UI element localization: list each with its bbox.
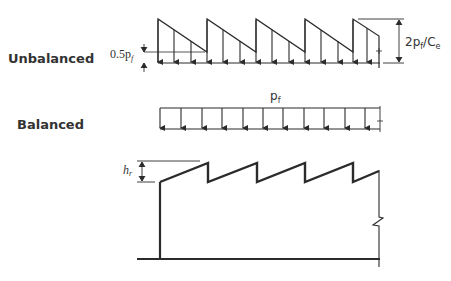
balanced-load-label: pf [270,89,281,105]
balanced-arrows [160,108,365,128]
roof-height-label: hr [123,163,133,178]
sawtooth-roof [160,163,379,182]
right-wall-break [373,170,383,267]
unbalanced-load-diagram [141,19,404,72]
max-load-label: 2pf/Ce [405,35,441,51]
half-load-label: 0.5pf [110,47,135,63]
max-load-dimension [358,19,404,63]
break-mark-upper [376,48,382,54]
building-section [137,161,383,267]
half-load-dimension [141,44,147,72]
sawtooth-roof-diagram: 0.5pf 2pf/Ce pf [0,0,451,281]
unbalanced-arrows [158,20,367,62]
balanced-load-diagram [160,106,383,132]
